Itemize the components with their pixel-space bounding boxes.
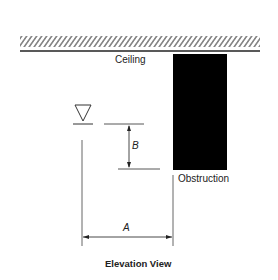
dim-b-arrowhead-down-icon xyxy=(127,162,131,168)
ceiling-hatch xyxy=(20,36,260,47)
dimension-b-label: B xyxy=(132,140,139,151)
dim-a-arrowhead-left-icon xyxy=(83,235,89,239)
elevation-diagram xyxy=(0,0,278,280)
obstruction-block xyxy=(173,54,227,170)
diagram-title: Elevation View xyxy=(105,258,171,269)
dimension-a-label: A xyxy=(123,222,130,233)
ceiling-label: Ceiling xyxy=(115,54,146,65)
obstruction-label: Obstruction xyxy=(178,173,229,184)
dim-a-arrowhead-right-icon xyxy=(166,235,172,239)
sprinkler-triangle-icon xyxy=(75,105,91,121)
dim-b-arrowhead-up-icon xyxy=(127,125,131,131)
